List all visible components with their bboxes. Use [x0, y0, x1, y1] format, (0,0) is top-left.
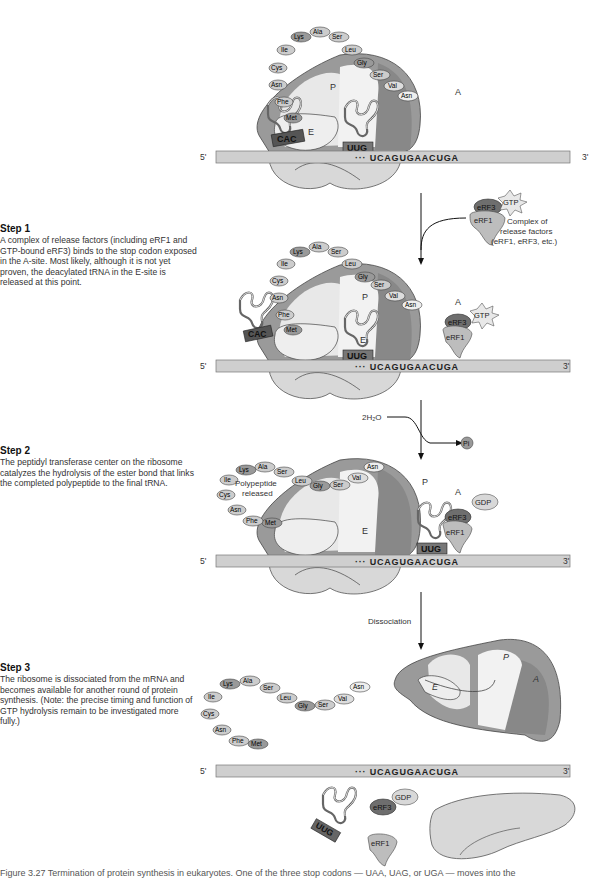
svg-text:Gly: Gly: [357, 59, 368, 67]
complex-label-line-2: release factors: [500, 227, 552, 236]
svg-text:Cys: Cys: [219, 491, 231, 499]
svg-text:Leu: Leu: [345, 46, 356, 53]
svg-text:Ser: Ser: [331, 248, 342, 255]
svg-text:A: A: [532, 674, 539, 684]
svg-text:Val: Val: [388, 82, 397, 89]
svg-text:Lys: Lys: [293, 248, 304, 256]
polypeptide-released-line-1: Polypeptide: [235, 479, 277, 488]
svg-text:··· UCAGUGAACUGA: ··· UCAGUGAACUGA: [355, 557, 459, 567]
svg-text:Ile: Ile: [281, 46, 288, 53]
svg-text:Lys: Lys: [294, 33, 305, 41]
polypeptide-chain-3: Met Phe Asn Cys Ile Lys Ala Ser Leu Gly …: [201, 676, 370, 749]
e-site-label: E: [308, 127, 314, 137]
erf1-label: eRF1: [474, 216, 492, 225]
svg-text:Ser: Ser: [318, 701, 329, 708]
svg-text:E: E: [432, 682, 439, 692]
svg-text:Asn: Asn: [272, 294, 284, 301]
svg-text:GDP: GDP: [395, 793, 411, 802]
svg-text:Ala: Ala: [313, 28, 323, 35]
svg-text:Ile: Ile: [224, 476, 231, 483]
svg-text:P: P: [422, 477, 428, 487]
svg-text:Met: Met: [286, 114, 297, 121]
svg-text:Ala: Ala: [258, 463, 268, 470]
svg-text:Leu: Leu: [280, 694, 291, 701]
svg-text:Cys: Cys: [272, 277, 284, 285]
svg-text:Cys: Cys: [271, 64, 283, 72]
svg-text:Ile: Ile: [208, 693, 215, 700]
mrna-sequence: ··· UCAGUGAACUGA: [355, 153, 459, 163]
svg-text:Val: Val: [389, 292, 398, 299]
panel-step-3: P A E: [394, 639, 560, 741]
svg-text:A: A: [455, 297, 461, 307]
svg-text:GTP: GTP: [474, 311, 489, 320]
svg-text:UUG: UUG: [421, 544, 441, 554]
svg-text:Lys: Lys: [223, 680, 234, 688]
five-prime-label: 5': [200, 152, 207, 162]
svg-text:Ser: Ser: [263, 684, 274, 691]
svg-text:Ser: Ser: [373, 71, 384, 78]
svg-text:Phe: Phe: [277, 98, 289, 105]
svg-text:Phe: Phe: [232, 737, 244, 744]
svg-text:Ser: Ser: [277, 468, 288, 475]
svg-text:Gly: Gly: [313, 482, 324, 490]
p-site-label: P: [330, 82, 336, 92]
svg-text:P: P: [362, 292, 368, 302]
svg-text:··· UCAGUGAACUGA: ··· UCAGUGAACUGA: [355, 767, 459, 777]
polypeptide-released-line-2: released: [242, 489, 273, 498]
svg-text:Asn: Asn: [271, 81, 283, 88]
svg-text:Asn: Asn: [215, 726, 227, 733]
svg-text:UUG: UUG: [347, 351, 367, 361]
svg-text:Phe: Phe: [278, 311, 290, 318]
svg-text:E: E: [362, 526, 368, 536]
svg-text:Asn: Asn: [401, 92, 413, 99]
svg-text:Ala: Ala: [243, 677, 253, 684]
svg-text:E: E: [360, 335, 366, 345]
complex-label-line-3: (eRF1, eRF3, etc.): [491, 237, 558, 246]
svg-text:eRF3: eRF3: [448, 513, 466, 522]
svg-text:Gly: Gly: [298, 702, 309, 710]
small-subunit: [430, 793, 575, 859]
water-label: 2H₂O: [362, 413, 382, 422]
svg-text:Ile: Ile: [281, 260, 288, 267]
svg-text:Cys: Cys: [203, 710, 215, 718]
svg-text:Gly: Gly: [358, 273, 369, 281]
svg-text:Leu: Leu: [345, 260, 356, 267]
svg-text:Lys: Lys: [239, 466, 250, 474]
svg-text:Phe: Phe: [246, 517, 258, 524]
svg-text:Met: Met: [265, 519, 276, 526]
svg-text:eRF1: eRF1: [446, 333, 464, 342]
svg-text:GDP: GDP: [475, 498, 491, 507]
svg-text:Asn: Asn: [230, 506, 242, 513]
svg-text:Ser: Ser: [374, 281, 385, 288]
figure-caption: Figure 3.27 Termination of protein synth…: [0, 868, 596, 878]
svg-text:eRF1: eRF1: [446, 528, 464, 537]
svg-text:3': 3': [563, 361, 570, 371]
svg-text:Leu: Leu: [295, 477, 306, 484]
svg-text:5': 5': [200, 766, 207, 776]
three-prime-label: 3': [582, 152, 589, 162]
svg-text:eRF1: eRF1: [371, 839, 389, 848]
a-site-label: A: [455, 87, 461, 97]
svg-text:Ala: Ala: [312, 243, 322, 250]
svg-text:Val: Val: [352, 474, 361, 481]
e-anticodon-label: CAC: [277, 134, 297, 144]
svg-text:Ser: Ser: [332, 33, 343, 40]
svg-text:A: A: [455, 487, 461, 497]
svg-text:Met: Met: [251, 740, 262, 747]
termination-diagram: CAC UUG E P A 5' 3' ··· UCAGUGAACUGA Met…: [0, 0, 596, 881]
svg-text:Asn: Asn: [367, 463, 379, 470]
svg-text:Ser: Ser: [333, 481, 344, 488]
complex-label-line-1: Complex of: [507, 217, 548, 226]
svg-text:eRF3: eRF3: [373, 803, 391, 812]
svg-text:Val: Val: [338, 695, 347, 702]
svg-text:5': 5': [200, 361, 207, 371]
svg-text:Asn: Asn: [353, 683, 365, 690]
svg-text:5': 5': [200, 556, 207, 566]
svg-text:eRF3: eRF3: [448, 318, 466, 327]
svg-text:Met: Met: [286, 326, 297, 333]
svg-text:3': 3': [563, 556, 570, 566]
pi-label: Pi: [463, 440, 470, 447]
svg-text:··· UCAGUGAACUGA: ··· UCAGUGAACUGA: [355, 362, 459, 372]
svg-text:Asn: Asn: [405, 301, 417, 308]
dissociation-label: Dissociation: [368, 617, 411, 626]
